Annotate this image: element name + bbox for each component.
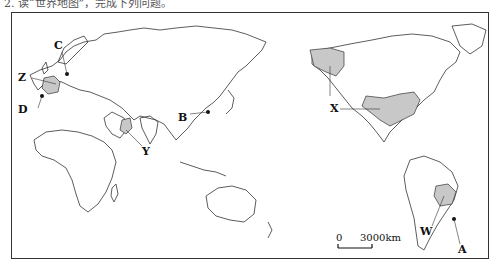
region-w-bolivia bbox=[434, 184, 456, 206]
label-c: C bbox=[54, 40, 63, 51]
label-a: A bbox=[458, 244, 467, 255]
label-w: W bbox=[420, 226, 432, 237]
label-z: Z bbox=[18, 72, 26, 83]
scale-end: 3000km bbox=[360, 232, 401, 243]
region-x-alaska bbox=[310, 48, 344, 76]
new-zealand-outline bbox=[268, 222, 272, 238]
japan-outline bbox=[226, 90, 234, 114]
label-y: Y bbox=[142, 146, 150, 157]
india-outline bbox=[140, 116, 158, 144]
madagascar-outline bbox=[111, 184, 118, 202]
scale-bar-line bbox=[338, 244, 372, 248]
indonesia-outline bbox=[180, 162, 226, 176]
eurasia-outline bbox=[30, 26, 266, 140]
label-x: X bbox=[330, 103, 339, 114]
label-d: D bbox=[18, 104, 28, 115]
region-y-oman bbox=[120, 118, 132, 134]
label-b: B bbox=[178, 112, 187, 123]
australia-outline bbox=[206, 186, 256, 222]
africa-outline bbox=[34, 130, 116, 212]
region-z-france bbox=[42, 76, 60, 94]
scale-start: 0 bbox=[336, 232, 342, 243]
